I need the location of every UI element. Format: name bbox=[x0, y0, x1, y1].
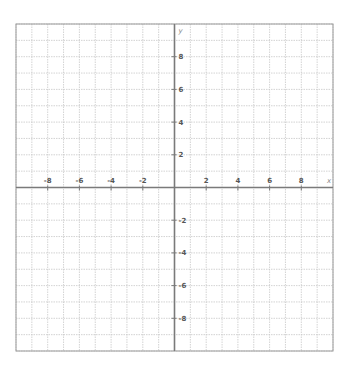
coordinate-plane: -8-6-4-22468-8-6-4-22468 x y bbox=[0, 0, 344, 378]
x-tick-label: -6 bbox=[76, 177, 84, 185]
y-tick-label: -4 bbox=[179, 249, 187, 257]
y-tick-label: 4 bbox=[179, 119, 184, 127]
x-tick-label: -2 bbox=[139, 177, 147, 185]
x-tick-label: 8 bbox=[299, 177, 304, 185]
y-tick-label: -8 bbox=[179, 315, 187, 323]
y-tick-label: -2 bbox=[179, 217, 187, 225]
x-tick-label: -8 bbox=[44, 177, 52, 185]
x-tick-label: 4 bbox=[235, 177, 240, 185]
y-tick-label: 6 bbox=[179, 86, 184, 94]
x-tick-label: 6 bbox=[267, 177, 272, 185]
y-tick-label: -6 bbox=[179, 282, 187, 290]
x-tick-label: -4 bbox=[107, 177, 115, 185]
x-tick-label: 2 bbox=[204, 177, 209, 185]
x-axis-label: x bbox=[326, 177, 332, 185]
y-tick-label: 2 bbox=[179, 151, 184, 159]
y-axis-label: y bbox=[178, 27, 184, 35]
y-tick-label: 8 bbox=[179, 53, 184, 61]
